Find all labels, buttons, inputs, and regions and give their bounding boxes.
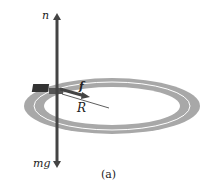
arrowhead-down-icon <box>53 161 61 168</box>
radius-label: R <box>77 101 86 115</box>
friction-label: f <box>79 80 84 93</box>
figure-caption: (a) <box>101 168 116 181</box>
weight-label: mg <box>33 157 50 170</box>
circular-track <box>24 78 200 134</box>
arrowhead-up-icon <box>53 13 61 20</box>
normal-force-label: n <box>42 9 49 22</box>
diagram-canvas <box>0 0 208 192</box>
